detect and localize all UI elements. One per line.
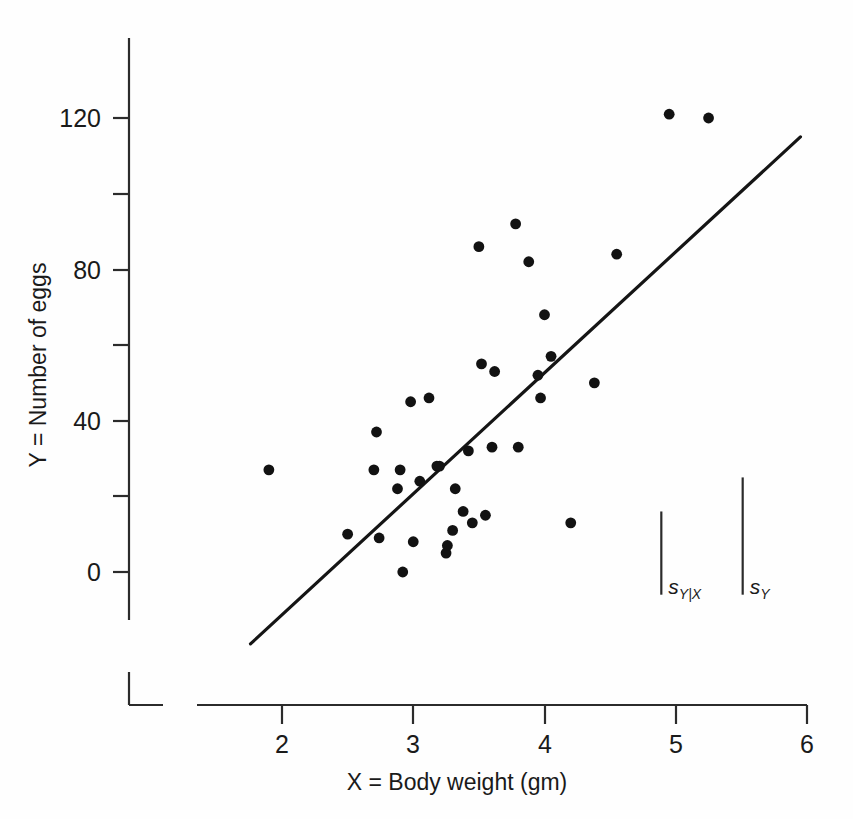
data-point <box>397 567 408 578</box>
y-axis-group: 0 40 80 120 Y = Number of eggs <box>25 38 163 705</box>
data-point <box>467 517 478 528</box>
data-point <box>463 446 474 457</box>
data-point <box>263 464 274 475</box>
data-point <box>589 377 600 388</box>
data-point <box>539 309 550 320</box>
x-axis-title: X = Body weight (gm) <box>347 769 568 795</box>
data-point <box>487 442 498 453</box>
y-axis-title: Y = Number of eggs <box>25 263 51 468</box>
data-point <box>458 506 469 517</box>
y-tick-label-80: 80 <box>73 256 101 284</box>
data-point <box>489 366 500 377</box>
regression-line <box>251 137 801 644</box>
data-point <box>374 533 385 544</box>
data-point <box>434 461 445 472</box>
data-point <box>442 540 453 551</box>
s-y-bar-label: sY <box>750 575 772 602</box>
data-point <box>408 536 419 547</box>
data-point <box>473 241 484 252</box>
x-tick-label-4: 4 <box>538 730 552 758</box>
data-point <box>546 351 557 362</box>
x-tick-label-3: 3 <box>406 730 420 758</box>
spread-annotations-group: sY|XsY <box>661 477 771 601</box>
data-point <box>450 483 461 494</box>
data-point <box>703 113 714 124</box>
data-point <box>392 483 403 494</box>
data-point <box>565 517 576 528</box>
data-point <box>405 396 416 407</box>
data-point <box>611 249 622 260</box>
data-point <box>447 525 458 536</box>
data-point <box>523 256 534 267</box>
x-tick-label-2: 2 <box>275 730 289 758</box>
y-tick-label-120: 120 <box>59 104 101 132</box>
regression-line-group <box>251 137 801 644</box>
data-points-group <box>263 109 713 578</box>
data-point <box>535 393 546 404</box>
chart-canvas: 0 40 80 120 Y = Number of eggs 2 3 4 5 6… <box>0 0 853 819</box>
data-point <box>510 219 521 230</box>
data-point <box>414 476 425 487</box>
data-point <box>664 109 675 120</box>
data-point <box>480 510 491 521</box>
data-point <box>533 370 544 381</box>
x-axis-group: 2 3 4 5 6 X = Body weight (gm) <box>197 705 814 795</box>
x-tick-label-6: 6 <box>800 730 814 758</box>
data-point <box>395 464 406 475</box>
data-point <box>368 464 379 475</box>
data-point <box>513 442 524 453</box>
data-point <box>424 393 435 404</box>
data-point <box>342 529 353 540</box>
y-tick-label-0: 0 <box>87 558 101 586</box>
x-tick-label-5: 5 <box>669 730 683 758</box>
y-tick-label-40: 40 <box>73 407 101 435</box>
s-y-given-x-bar-label: sY|X <box>668 575 701 602</box>
scatter-plot-figure: 0 40 80 120 Y = Number of eggs 2 3 4 5 6… <box>0 0 853 819</box>
data-point <box>371 427 382 438</box>
data-point <box>476 359 487 370</box>
